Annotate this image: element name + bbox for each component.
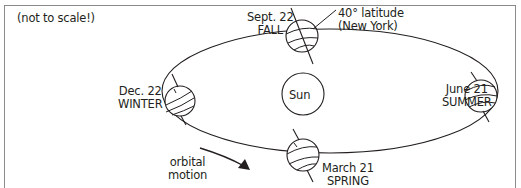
latitude-pointer bbox=[313, 10, 336, 29]
not-to-scale-note: (not to scale!) bbox=[17, 12, 95, 25]
orbit-line2: motion bbox=[168, 169, 207, 182]
winter-season: WINTER bbox=[118, 98, 162, 111]
fall-season: FALL bbox=[247, 24, 294, 37]
earth-winter-icon bbox=[165, 74, 195, 125]
spring-season: SPRING bbox=[322, 175, 374, 188]
summer-season: SUMMER bbox=[442, 96, 492, 109]
sun-label: Sun bbox=[289, 89, 310, 102]
label-orbital-motion: orbital motion bbox=[168, 156, 207, 182]
label-latitude: 40° latitude (New York) bbox=[338, 7, 404, 33]
earth-spring-icon bbox=[287, 129, 319, 182]
latitude-line2: (New York) bbox=[338, 20, 404, 33]
label-fall: Sept. 22 FALL bbox=[247, 11, 294, 37]
label-winter: Dec. 22 WINTER bbox=[118, 85, 162, 111]
label-spring: March 21 SPRING bbox=[322, 162, 374, 188]
label-summer: June 21 SUMMER bbox=[442, 83, 492, 109]
